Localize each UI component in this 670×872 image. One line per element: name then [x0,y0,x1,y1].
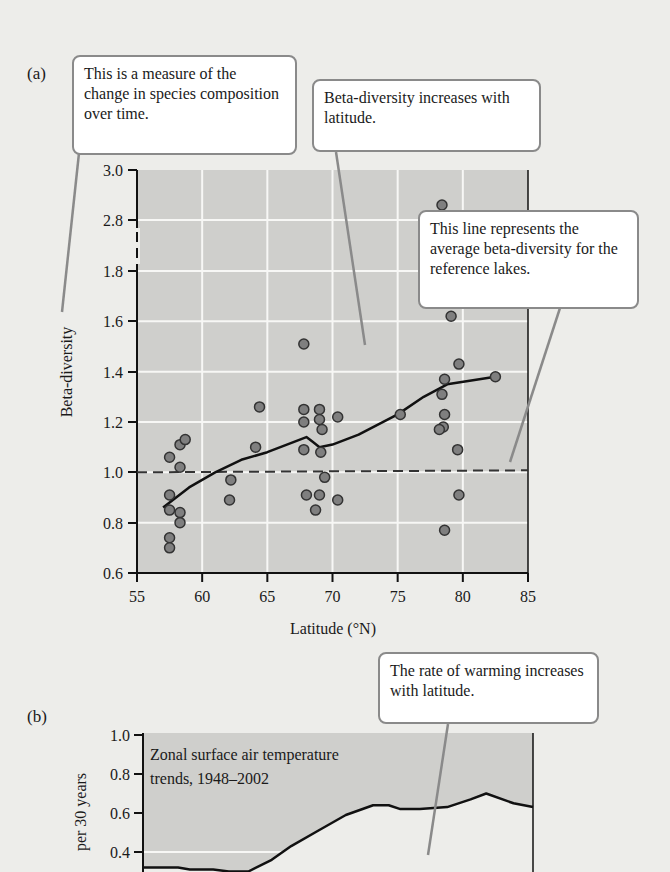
data-point [251,442,261,452]
data-point [299,339,309,349]
data-point [299,404,309,414]
data-point [453,445,463,455]
x-tick-label: 70 [325,588,341,605]
data-point [225,495,235,505]
y-tick-label: 1.8 [103,263,123,280]
y-tick-label: 1.0 [110,727,130,744]
callout-warming: The rate of warming increases with latit… [378,652,599,724]
x-tick-label: 60 [194,588,210,605]
data-point [434,425,444,435]
y-tick-label: 0.6 [103,565,123,582]
chart-b-title-line2: trends, 1948–2002 [150,770,269,787]
data-point [437,389,447,399]
chart-b-title-line1: Zonal surface air temperature [150,746,339,764]
data-point [316,447,326,457]
callout-measure: This is a measure of the change in speci… [72,55,297,155]
y-tick-label: 2.8 [103,212,123,229]
data-point [440,374,450,384]
data-point [180,435,190,445]
y-axis-title-b: per 30 years [72,773,90,851]
data-point [311,505,321,515]
data-point [333,495,343,505]
data-point [440,525,450,535]
data-point [299,445,309,455]
data-point [395,409,405,419]
data-point [446,311,456,321]
data-point [320,472,330,482]
data-point [299,417,309,427]
leader-measure [62,153,79,312]
data-point [175,518,185,528]
data-point [314,414,324,424]
data-point [165,533,175,543]
data-point [165,452,175,462]
data-point [165,505,175,515]
x-tick-label: 65 [259,588,275,605]
data-point [454,359,464,369]
data-point [175,508,185,518]
data-point [440,409,450,419]
y-tick-label: 3.0 [103,162,123,179]
y-axis-title: Beta-diversity [58,327,76,418]
x-tick-label: 75 [390,588,406,605]
y-tick-label: 0.4 [110,844,130,861]
x-tick-label: 55 [129,588,145,605]
data-point [333,412,343,422]
y-tick-label: 0.8 [103,515,123,532]
chart-b-plot: 0.40.60.81.0Zonal surface air temperatur… [72,727,533,872]
data-point [255,402,265,412]
callout-reference: This line represents the average beta-di… [418,210,639,309]
y-tick-label: 1.0 [103,464,123,481]
data-point [454,490,464,500]
data-point [490,372,500,382]
data-point [317,425,327,435]
x-axis-title: Latitude (°N) [290,620,376,638]
data-point [301,490,311,500]
callout-increase: Beta-diversity increases with latitude. [312,79,541,152]
data-point [175,462,185,472]
y-tick-label: 1.2 [103,414,123,431]
y-tick-label: 0.8 [110,766,130,783]
y-tick-label: 0.6 [110,805,130,822]
data-point [165,490,175,500]
y-tick-label: 1.6 [103,313,123,330]
data-point [314,404,324,414]
data-point [314,490,324,500]
data-point [437,200,447,210]
y-tick-label: 1.4 [103,364,123,381]
data-point [226,475,236,485]
x-tick-label: 85 [520,588,536,605]
x-tick-label: 80 [455,588,471,605]
data-point [165,543,175,553]
